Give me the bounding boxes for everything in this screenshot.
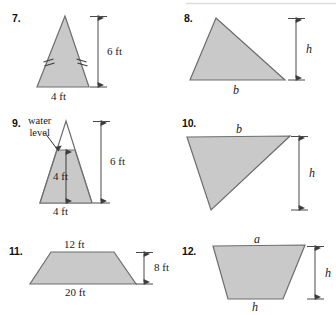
worksheet-page: 7. 6 ft 4 ft 8. h b 9. water level 6 ft … [0,0,336,315]
label-7-base: 4 ft [51,90,66,102]
trapezoid-11-shape [30,252,136,284]
dimension-8-height [288,19,305,81]
label-10-height: h [309,166,315,181]
label-11-top-base: 12 ft [64,238,84,250]
label-7-height: 6 ft [107,45,122,57]
figure-11 [30,252,153,284]
figure-7 [37,16,107,87]
dimension-11-height [136,253,153,285]
dimension-10-height [291,137,308,211]
figure-8 [190,18,305,80]
callout-9-line1: water [28,115,51,126]
label-9-water-depth: 4 ft [53,170,68,182]
callout-9-line2: level [29,127,49,138]
problem-number-8: 8. [184,12,192,24]
label-8-height: h [306,42,312,57]
dimension-7-height [90,17,107,88]
label-11-height: 8 ft [154,261,169,273]
problem-number-7: 7. [12,12,20,24]
label-8-base: b [233,83,239,98]
dimension-9-total-height [93,122,110,204]
triangle-7-shape [37,16,89,87]
triangle-10-shape [187,136,290,210]
callout-9-water-level: water level [28,115,51,138]
triangle-8-shape [190,18,285,80]
label-11-bottom-base: 20 ft [65,286,85,298]
dimension-12-height [307,247,324,300]
problem-number-10: 10. [182,117,196,129]
label-9-total-height: 6 ft [110,155,125,167]
problem-number-11: 11. [9,245,22,257]
problem-number-12: 12. [182,245,196,257]
figure-10 [187,136,308,210]
figure-12 [213,245,324,299]
trapezoid-12-shape [213,245,305,299]
label-12-bottom-base: h [252,300,258,315]
label-12-top-base: a [254,232,260,247]
label-12-height: h [325,266,331,281]
label-9-base: 4 ft [53,205,68,217]
problem-number-9-text: 9. [12,117,20,129]
problem-number-9: 9. [12,117,20,129]
label-10-base: b [236,122,242,137]
